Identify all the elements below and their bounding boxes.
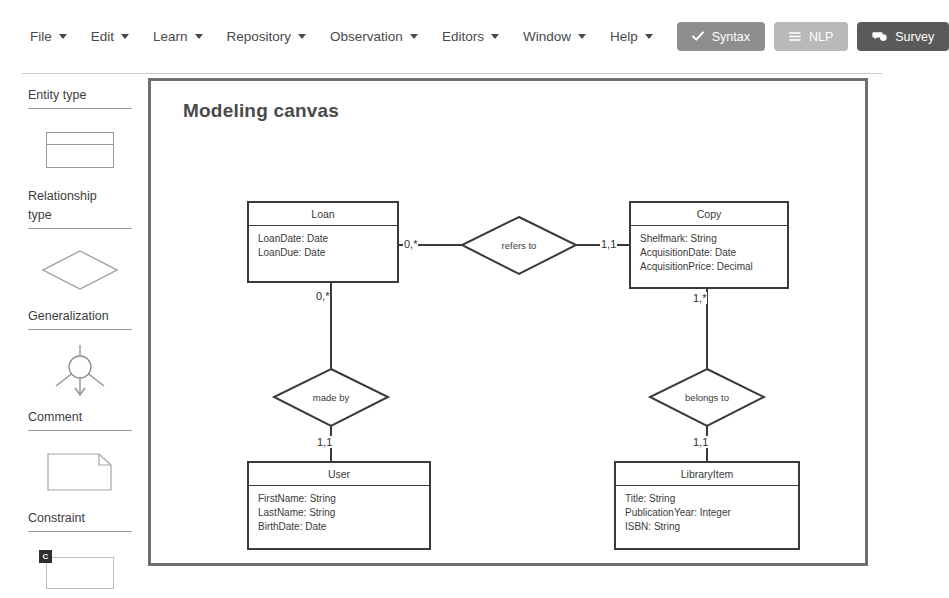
menu-item-repository[interactable]: Repository [227,29,307,44]
survey-button-label: Survey [895,30,934,44]
menu-bar: File Edit Learn Repository Observation E… [0,0,895,73]
menu-item-label: Learn [153,29,188,44]
menu-item-label: File [30,29,52,44]
menu-item-label: Editors [442,29,484,44]
entity-name: Loan [249,203,397,226]
menu-item-file[interactable]: File [30,29,67,44]
cardinality-user-made-by: 1,1 [316,436,333,448]
entity-attribute: Title: String [625,492,789,506]
palette-divider [28,329,132,330]
modeling-canvas[interactable]: Modeling canvas refers to made by belong… [148,78,868,566]
entity-attribute: Shelfmark: String [640,232,778,246]
entity-attribute: PublicationYear: Integer [625,506,789,520]
entity-attribute: LastName: String [258,506,420,520]
palette-label: Relationship type [28,187,112,228]
entity-loan[interactable]: Loan LoanDate: Date LoanDue: Date [247,201,399,283]
entity-attribute: AcquisitionDate: Date [640,246,778,260]
cardinality-loan-made-by: 0,* [315,290,330,302]
chevron-down-icon [121,34,129,39]
menu-item-label: Window [523,29,571,44]
menu-item-label: Edit [91,29,114,44]
entity-attribute: FirstName: String [258,492,420,506]
palette-label: Constraint [28,509,132,531]
menu-item-edit[interactable]: Edit [91,29,129,44]
palette-item-comment[interactable] [28,444,132,500]
relationship-label-refers-to: refers to [487,240,551,251]
palette-group-constraint: Constraint C [28,509,132,598]
palette-item-relationship-type[interactable] [28,242,132,298]
entity-libraryitem[interactable]: LibraryItem Title: String PublicationYea… [614,461,800,550]
entity-attribute: BirthDate: Date [258,520,420,534]
menu-item-help[interactable]: Help [610,29,653,44]
nlp-button-label: NLP [809,30,833,44]
relationship-label-made-by: made by [299,392,363,403]
entity-name: Copy [631,203,787,226]
entity-attribute: LoanDate: Date [258,232,388,246]
cardinality-copy-belongs-to: 1,* [692,292,707,304]
palette-label: Generalization [28,307,132,329]
comment-note-icon [47,453,113,491]
entity-attributes: LoanDate: Date LoanDue: Date [249,226,397,267]
entity-attributes: Shelfmark: String AcquisitionDate: Date … [631,226,787,281]
constraint-icon: C [46,557,114,589]
menu-item-window[interactable]: Window [523,29,586,44]
generalization-icon [48,343,112,399]
menu-item-editors[interactable]: Editors [442,29,499,44]
palette-divider [28,228,132,229]
chevron-down-icon [645,34,653,39]
palette-group-generalization: Generalization [28,307,132,399]
palette-sidebar: Entity type Relationship type Generaliza… [28,86,132,598]
palette-item-generalization[interactable] [28,343,132,399]
nlp-button[interactable]: NLP [774,22,848,51]
survey-button[interactable]: Survey [857,22,949,51]
menu-item-learn[interactable]: Learn [153,29,203,44]
chevron-down-icon [410,34,418,39]
check-icon [692,31,704,42]
entity-user[interactable]: User FirstName: String LastName: String … [247,461,431,550]
entity-copy[interactable]: Copy Shelfmark: String AcquisitionDate: … [629,201,789,289]
menu-item-label: Help [610,29,638,44]
chevron-down-icon [195,34,203,39]
palette-divider [28,531,132,532]
entity-attribute: AcquisitionPrice: Decimal [640,260,778,274]
entity-attributes: FirstName: String LastName: String Birth… [249,486,429,541]
palette-divider [28,108,132,109]
palette-group-relationship-type: Relationship type [28,187,132,298]
diamond-icon [41,249,119,291]
cardinality-copy-refers-to: 1,1 [600,238,617,250]
palette-group-entity-type: Entity type [28,86,132,178]
palette-item-entity-type[interactable] [28,122,132,178]
chevron-down-icon [578,34,586,39]
entity-name: LibraryItem [616,463,798,486]
chevron-down-icon [298,34,306,39]
cardinality-loan-refers-to: 0,* [403,238,418,250]
menu-item-observation[interactable]: Observation [330,29,418,44]
palette-label: Entity type [28,86,132,108]
list-icon [789,31,801,42]
palette-divider [28,430,132,431]
entity-name: User [249,463,429,486]
constraint-badge: C [39,550,52,563]
entity-rectangle-icon [46,132,114,168]
palette-group-comment: Comment [28,408,132,500]
chevron-down-icon [59,34,67,39]
entity-attribute: ISBN: String [625,520,789,534]
relationship-label-belongs-to: belongs to [675,392,739,403]
menu-item-label: Observation [330,29,403,44]
palette-item-constraint[interactable]: C [28,545,132,598]
entity-attributes: Title: String PublicationYear: Integer I… [616,486,798,541]
comments-icon [872,31,887,43]
entity-attribute: LoanDue: Date [258,246,388,260]
cardinality-libraryitem-belongs-to: 1,1 [692,436,709,448]
palette-label: Comment [28,408,132,430]
menu-divider [22,73,882,74]
menu-item-label: Repository [227,29,292,44]
chevron-down-icon [491,34,499,39]
syntax-button-label: Syntax [712,30,750,44]
syntax-button[interactable]: Syntax [677,22,765,51]
